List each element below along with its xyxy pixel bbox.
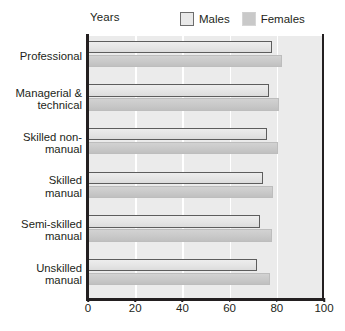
y-label-line: Managerial & [0, 87, 82, 100]
plot-area [88, 36, 324, 298]
bar-group [88, 254, 324, 298]
legend-label-females: Females [261, 13, 305, 25]
y-label-line: technical [0, 99, 82, 112]
y-axis-category-labels: ProfessionalManagerial &technicalSkilled… [0, 36, 82, 298]
y-label-line: manual [0, 187, 82, 200]
x-tick-mark-80 [276, 298, 278, 302]
legend-label-males: Males [199, 13, 230, 25]
x-tick-mark-60 [229, 298, 231, 302]
y-label-line: manual [0, 274, 82, 287]
bar-males-4 [88, 215, 260, 228]
y-axis-label-2: Skilled non-manual [0, 131, 82, 156]
bar-chart: Years Males Females ProfessionalManageri… [0, 0, 345, 331]
bar-females-4 [88, 229, 272, 242]
x-axis-line [86, 298, 325, 301]
x-tick-label-0: 0 [85, 302, 91, 314]
y-axis-line [86, 34, 89, 300]
plot-right-border [322, 34, 324, 300]
bar-females-1 [88, 98, 279, 111]
legend-item-females: Females [242, 12, 305, 26]
y-label-line: manual [0, 143, 82, 156]
y-label-line: Semi-skilled [0, 218, 82, 231]
x-tick-label-80: 80 [270, 302, 283, 314]
bar-females-2 [88, 142, 278, 155]
bar-group [88, 167, 324, 211]
y-label-line: Skilled [0, 174, 82, 187]
bar-females-0 [88, 55, 282, 68]
males-swatch-icon [180, 12, 194, 26]
y-label-line: Unskilled [0, 262, 82, 275]
bar-males-2 [88, 128, 267, 141]
bar-males-1 [88, 84, 269, 97]
gridline-100 [324, 36, 326, 298]
x-tick-mark-100 [323, 298, 325, 302]
bars-layer [88, 36, 324, 298]
y-label-line: Professional [0, 50, 82, 63]
bar-group [88, 211, 324, 255]
bar-group [88, 123, 324, 167]
chart-header: Years Males Females [0, 8, 345, 34]
y-axis-label-1: Managerial &technical [0, 87, 82, 112]
x-tick-mark-0 [87, 298, 89, 302]
x-tick-mark-20 [134, 298, 136, 302]
y-axis-label-0: Professional [0, 50, 82, 63]
x-tick-label-40: 40 [176, 302, 189, 314]
females-swatch-icon [242, 12, 256, 26]
bar-males-5 [88, 259, 257, 272]
legend-item-males: Males [180, 12, 230, 26]
chart-legend: Males Females [180, 8, 305, 30]
bar-group [88, 36, 324, 80]
x-tick-label-60: 60 [223, 302, 236, 314]
x-tick-label-20: 20 [129, 302, 142, 314]
y-label-line: manual [0, 230, 82, 243]
y-label-line: Skilled non- [0, 131, 82, 144]
y-axis-label-3: Skilledmanual [0, 174, 82, 199]
bar-females-5 [88, 273, 270, 286]
y-axis-label-4: Semi-skilledmanual [0, 218, 82, 243]
bar-males-3 [88, 172, 263, 185]
x-tick-label-100: 100 [314, 302, 333, 314]
bar-males-0 [88, 41, 272, 54]
x-tick-mark-40 [182, 298, 184, 302]
y-axis-label-5: Unskilledmanual [0, 262, 82, 287]
bar-females-3 [88, 186, 273, 199]
x-axis-tick-labels: 020406080100 [0, 302, 345, 322]
bar-group [88, 80, 324, 124]
x-axis-unit-label: Years [90, 11, 120, 23]
